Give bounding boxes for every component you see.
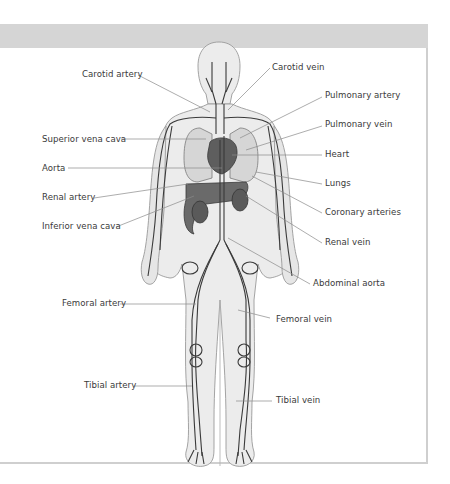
label-carotid-vein: Carotid vein [272,62,325,72]
label-coronary-arteries: Coronary arteries [325,207,401,217]
label-femoral-artery: Femoral artery [62,298,126,308]
label-renal-vein: Renal vein [325,237,370,247]
label-femoral-vein: Femoral vein [276,314,332,324]
label-inferior-vena-cava: Inferior vena cava [42,221,121,231]
label-carotid-artery: Carotid artery [82,69,143,79]
label-pulmonary-vein: Pulmonary vein [325,119,392,129]
label-abdominal-aorta: Abdominal aorta [313,278,385,288]
label-renal-artery: Renal artery [42,192,95,202]
label-superior-vena-cava: Superior vena cava [42,134,126,144]
circulatory-system-figure [0,0,450,484]
label-tibial-vein: Tibial vein [276,395,320,405]
label-tibial-artery: Tibial artery [84,380,136,390]
label-aorta: Aorta [42,163,65,173]
label-heart: Heart [325,149,349,159]
label-lungs: Lungs [325,178,351,188]
label-pulmonary-artery: Pulmonary artery [325,90,400,100]
